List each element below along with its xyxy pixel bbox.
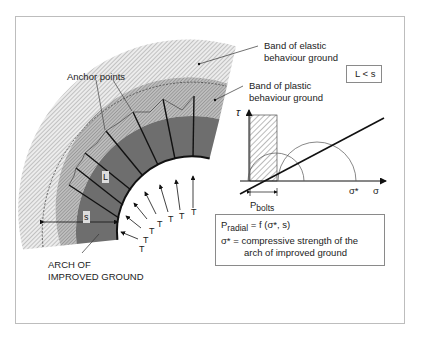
anchor-points-label: Anchor points [67, 71, 125, 83]
formula-line-2: σ* = compressive strength of the [221, 235, 358, 247]
t-label: T [179, 210, 185, 222]
t-label: T [168, 213, 174, 225]
bolt-length-label: L [102, 171, 109, 183]
p-bolts-label: Pbolts [250, 199, 274, 211]
formula-line-3: arch of improved ground [244, 247, 347, 259]
arch-label-2: IMPROVED GROUND [48, 271, 144, 283]
formula-box: Pradial = f (σ*, s) σ* = compressive str… [215, 214, 385, 266]
t-label: T [191, 206, 197, 218]
t-label: T [157, 218, 163, 230]
elastic-band-label-2: behaviour ground [264, 52, 338, 64]
plastic-band-label-1: Band of plastic [249, 80, 311, 92]
plastic-band-label-2: behaviour ground [249, 92, 323, 104]
p-bolts-hatched-region [250, 115, 277, 181]
sigma-axis-label: σ [373, 185, 379, 197]
condition-text: L < s [355, 68, 376, 80]
elastic-band-label-1: Band of elastic [264, 40, 326, 52]
tau-axis-label: τ [236, 106, 240, 118]
t-label: T [149, 225, 155, 237]
condition-box: L < s [346, 65, 382, 83]
mohr-plot [240, 110, 386, 196]
arch-label-1: ARCH OF [48, 259, 91, 271]
formula-line-1: Pradial = f (σ*, s) [221, 219, 290, 231]
t-label: T [139, 243, 145, 255]
spacing-label: s [83, 211, 90, 223]
tunnel-diagram [0, 0, 421, 341]
sigma-star-label: σ* [349, 185, 359, 197]
